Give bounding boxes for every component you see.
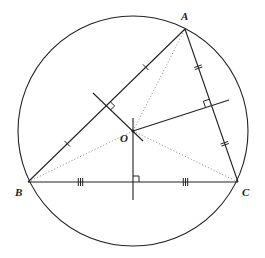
- right-angle-marker-ab: [110, 102, 114, 110]
- right-angle-marker-ac: [203, 99, 209, 107]
- circumcircle-diagram: A B C O: [0, 0, 265, 258]
- label-vertex-c: C: [242, 187, 249, 198]
- circumcenter-point: [131, 129, 134, 132]
- dotted-segment-oa: [133, 29, 185, 131]
- perpendicular-bisector-ab: [93, 93, 143, 141]
- dotted-segment-oc: [133, 131, 238, 182]
- right-angle-marker-bc: [133, 176, 139, 182]
- label-vertex-b: B: [15, 187, 22, 198]
- label-circumcenter-o: O: [120, 133, 128, 144]
- dotted-segment-ob: [28, 131, 133, 182]
- diagram-canvas: [0, 0, 265, 258]
- label-vertex-a: A: [181, 11, 188, 22]
